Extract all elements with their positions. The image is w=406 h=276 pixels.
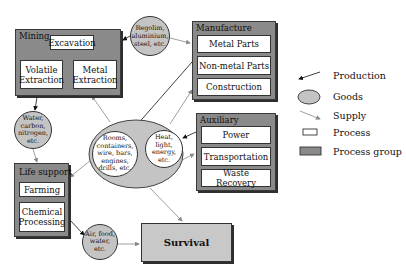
goods-water: Water, carbon, nitrogen, etc.: [14, 111, 52, 149]
goods-air: Air, food, water, etc.: [82, 224, 118, 260]
legend-goods: Goods: [333, 91, 363, 102]
legend-supply: Supply: [333, 110, 366, 121]
goods-regolith: Regolim, aluminium, steel, etc.: [130, 16, 170, 56]
goods-ellipse-icon: [298, 90, 320, 104]
manufacture-group: Manufacture Metal Parts Non-metal Parts …: [192, 21, 276, 100]
excavation-process: Excavation: [50, 35, 94, 50]
auxiliary-title: Auxiliary: [200, 115, 239, 125]
non-metal-parts-process: Non-metal Parts: [197, 56, 271, 75]
legend-production: Production: [333, 70, 386, 81]
manufacture-title: Manufacture: [196, 23, 252, 33]
supply-arrow-icon: [300, 111, 320, 119]
process-box-icon: [303, 129, 317, 135]
legend-process-group: Process group: [333, 146, 402, 157]
farming-process: Farming: [19, 182, 65, 197]
mining-group: Mining Excavation Volatile Extraction Me…: [15, 29, 121, 96]
chemical-processing-process: Chemical Processing: [19, 202, 65, 232]
mining-title: Mining: [19, 31, 50, 41]
auxiliary-group: Auxiliary Power Transportation Waste Rec…: [196, 113, 276, 191]
power-process: Power: [201, 126, 271, 144]
transportation-process: Transportation: [201, 147, 271, 166]
life-support-group: Life support Farming Chemical Processing: [14, 163, 69, 237]
metal-extraction-process: Metal Extraction: [73, 60, 117, 89]
survival-box: Survival: [141, 223, 232, 262]
goods-rooms: Rooms, containers, wire, bars, engines, …: [92, 131, 138, 177]
process-group-box-icon: [300, 147, 321, 155]
construction-process: Construction: [197, 78, 271, 96]
waste-recovery-process: Waste Recovery: [201, 169, 271, 187]
goods-heat: Heat, light, energy, etc.: [145, 130, 183, 168]
legend-process: Process: [333, 127, 370, 138]
metal-parts-process: Metal Parts: [197, 35, 271, 53]
volatile-extraction-process: Volatile Extraction: [20, 60, 63, 89]
life-support-title: Life support: [19, 167, 72, 177]
production-arrow-icon: [299, 72, 320, 79]
